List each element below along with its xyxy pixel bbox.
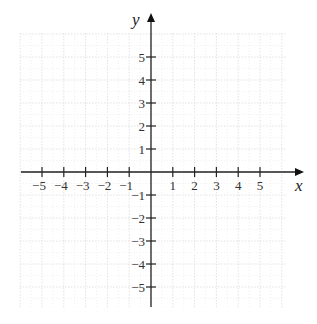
- y-tick-label: 5: [139, 50, 146, 65]
- y-tick-label: −4: [131, 257, 145, 272]
- x-tick-label: −4: [54, 178, 68, 193]
- y-tick-label: −2: [131, 211, 145, 226]
- x-axis-arrow-icon: [295, 168, 304, 176]
- x-tick-label: 2: [191, 178, 198, 193]
- x-tick-label: −2: [97, 178, 111, 193]
- y-tick-label: −5: [131, 280, 145, 295]
- grid: [20, 33, 286, 308]
- x-tick-label: −3: [76, 178, 90, 193]
- x-tick-label: 3: [213, 178, 220, 193]
- y-tick-label: 1: [139, 142, 146, 157]
- y-axis-label: y: [130, 10, 140, 29]
- x-tick-label: 1: [170, 178, 177, 193]
- y-tick-label: 3: [139, 96, 146, 111]
- y-axis-arrow-icon: [147, 13, 155, 22]
- x-tick-label: 5: [257, 178, 264, 193]
- y-tick-label: 2: [139, 119, 146, 134]
- x-tick-label: 4: [235, 178, 242, 193]
- y-tick-label: 4: [139, 73, 146, 88]
- x-tick-label: −5: [32, 178, 46, 193]
- coordinate-plane: −5−4−3−2−112345−5−4−3−2−112345 x y: [0, 0, 317, 324]
- x-axis-label: x: [294, 176, 303, 195]
- y-tick-label: −1: [131, 188, 145, 203]
- y-tick-label: −3: [131, 234, 145, 249]
